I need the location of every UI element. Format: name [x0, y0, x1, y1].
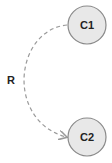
- node-c1[interactable]: C1: [68, 6, 106, 44]
- node-c2[interactable]: C2: [68, 118, 106, 156]
- diagram-canvas: R C1 C2: [0, 0, 112, 163]
- edge-r-dashed-arrow: [24, 25, 67, 137]
- node-c2-label: C2: [80, 131, 94, 143]
- node-c1-label: C1: [80, 19, 94, 31]
- edge-label-r: R: [7, 74, 15, 86]
